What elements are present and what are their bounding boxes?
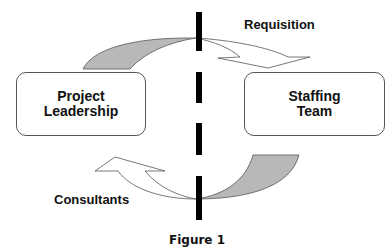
node-staffing-team: Staffing Team [244, 72, 385, 136]
node-label: Project Leadership [44, 89, 119, 119]
edge-label-consultants: Consultants [54, 192, 129, 207]
requisition-arrow-head [196, 38, 310, 68]
edge-label-requisition: Requisition [244, 17, 315, 32]
node-label: Staffing Team [288, 89, 340, 119]
dashed-divider [196, 12, 202, 220]
figure-caption: Figure 1 [169, 233, 225, 247]
consultants-arrow-shaded [196, 155, 299, 199]
requisition-arrow-shaded [83, 38, 196, 69]
node-project-leadership: Project Leadership [16, 72, 146, 136]
